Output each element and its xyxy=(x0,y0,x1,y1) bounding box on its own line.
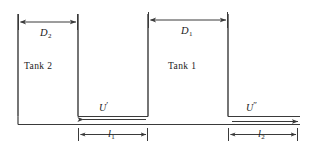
l2-label: l2 xyxy=(258,129,265,141)
tank-2-label: Tank 2 xyxy=(24,62,52,72)
u-prime-label: U′ xyxy=(99,101,108,113)
d2-label: D2 xyxy=(40,28,51,40)
d1-label: D1 xyxy=(181,26,192,38)
diagram-canvas xyxy=(0,0,312,151)
tank-system-diagram: D2 D1 Tank 2 Tank 1 U′ U″ l1 l2 xyxy=(0,0,312,151)
l1-label: l1 xyxy=(108,129,115,141)
u-double-prime-label: U″ xyxy=(246,101,257,113)
channel-outline xyxy=(18,117,300,125)
tank-1-label: Tank 1 xyxy=(168,62,196,72)
